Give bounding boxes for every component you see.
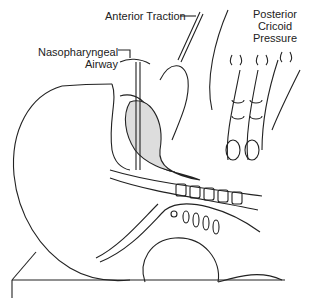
trachea-rings — [171, 211, 219, 234]
label-nasopharyngeal-airway: Nasopharyngeal Airway — [38, 46, 118, 70]
tongue — [125, 101, 200, 180]
label-posterior-cricoid-pressure: Posterior Cricoid Pressure — [245, 8, 305, 44]
medical-illustration — [0, 0, 315, 298]
support-roll — [143, 238, 219, 282]
label-anterior-traction: Anterior Traction — [105, 10, 186, 22]
